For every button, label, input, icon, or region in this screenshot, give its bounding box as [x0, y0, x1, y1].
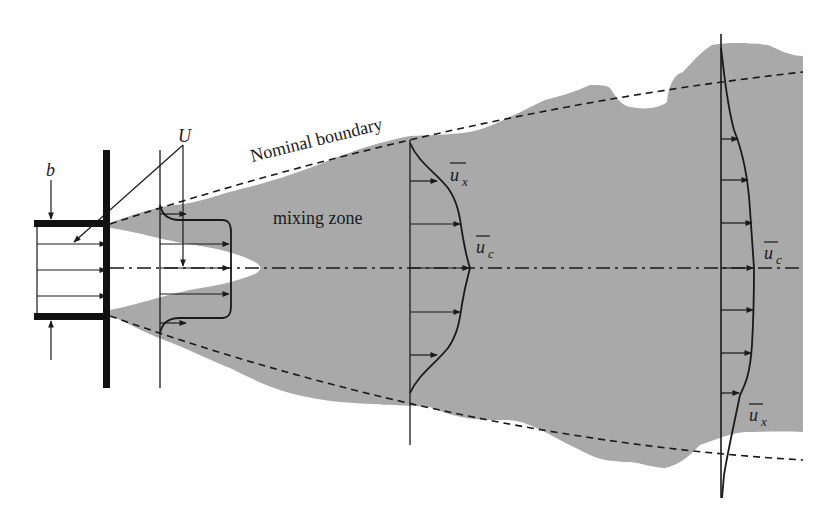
nozzle-wall-bottom: [34, 313, 110, 320]
svg-text:u: u: [450, 165, 459, 185]
svg-text:u: u: [764, 243, 773, 263]
label-U: U: [178, 126, 192, 146]
svg-text:c: c: [776, 252, 782, 267]
nozzle-plate: [103, 150, 110, 388]
label-b: b: [46, 160, 55, 180]
jet-diagram: b U u x u c: [0, 0, 839, 525]
nozzle-wall-top: [34, 220, 110, 227]
svg-text:u: u: [749, 405, 758, 425]
svg-text:x: x: [461, 174, 468, 189]
svg-text:c: c: [488, 246, 494, 261]
label-mixing-zone: mixing zone: [273, 208, 362, 228]
nozzle-velocity-arrows: [37, 244, 106, 296]
svg-text:u: u: [476, 237, 485, 257]
svg-text:x: x: [760, 414, 767, 429]
